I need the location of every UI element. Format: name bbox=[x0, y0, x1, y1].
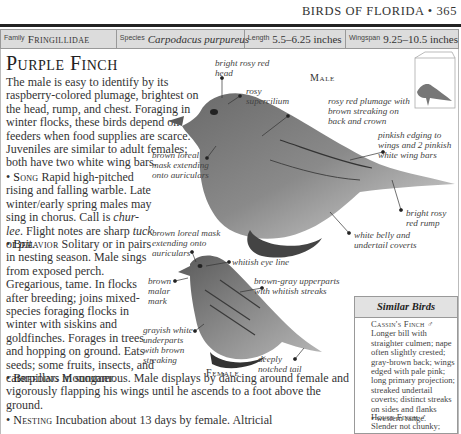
bullet: • bbox=[6, 237, 10, 251]
nesting-section: • Nesting Incubation about 13 days by fe… bbox=[6, 414, 351, 427]
male-symbol-icon: ♂ bbox=[427, 319, 433, 329]
family-value: Fringillidae bbox=[28, 33, 90, 45]
behavior-section: • Behavior Solitary or in pairs in nesti… bbox=[6, 238, 158, 385]
annotation-male-rump: bright rosy red rump bbox=[406, 208, 456, 228]
bullet: • bbox=[6, 371, 10, 385]
family-label: Family bbox=[4, 34, 25, 41]
annotation-female-tail: deeply notched tail bbox=[258, 354, 302, 374]
page-frame-left bbox=[0, 49, 1, 434]
length-cell: Length 5.5–6.25 inches bbox=[245, 30, 346, 48]
female-finch-illustration bbox=[178, 255, 322, 368]
range-map-card bbox=[415, 52, 455, 108]
female-label: Female bbox=[206, 367, 239, 378]
male-label: Male bbox=[310, 72, 335, 83]
header-rule bbox=[0, 24, 461, 27]
similar-birds-box: Similar Birds Cassin's Finch ♂ Longer bi… bbox=[354, 296, 458, 434]
annotation-male-belly: white belly and undertail coverts bbox=[354, 230, 434, 250]
species-label: Species bbox=[120, 34, 145, 41]
bullet: • bbox=[6, 170, 10, 184]
fact-bar: Family Fringillidae Species Carpodacus p… bbox=[0, 29, 459, 49]
similar-bird-entry: House Finch ♂ Slender not chunky; bbox=[371, 413, 457, 432]
similar-birds-heading: Similar Birds bbox=[355, 297, 457, 318]
breeding-label: Breeding bbox=[13, 371, 59, 385]
wingspan-value: 9.25–10.5 inches bbox=[383, 33, 458, 45]
page-frame-right bbox=[458, 49, 459, 434]
annotation-female-loreal: brown loreal mask extending onto auricul… bbox=[152, 228, 228, 258]
annotation-male-back: rosy red plumage with brown streaking on… bbox=[328, 96, 418, 126]
species-value: Carpodacus purpureus bbox=[148, 33, 249, 45]
length-label: Length bbox=[248, 34, 269, 41]
annotation-male-loreal: brown loreal mask extending onto auricul… bbox=[152, 150, 214, 180]
bullet: • bbox=[6, 413, 10, 427]
family-cell: Family Fringillidae bbox=[1, 30, 117, 48]
song-label: Song bbox=[13, 170, 38, 184]
species-title: Purple Finch bbox=[6, 52, 118, 75]
annotation-female-eye-line: whitish eye line bbox=[232, 257, 302, 267]
length-value: 5.5–6.25 inches bbox=[272, 33, 341, 45]
species-cell: Species Carpodacus purpureus bbox=[117, 30, 245, 48]
annotation-female-underparts: grayish white underparts with brown stre… bbox=[143, 325, 195, 365]
annotation-female-upperparts: brown-gray upperparts with whitish strea… bbox=[254, 276, 354, 296]
similar-bird-entry: Cassin's Finch ♂ Longer bill with straig… bbox=[371, 320, 457, 423]
breeding-section: • Breeding Monogamous. Male displays by … bbox=[6, 372, 351, 412]
running-head: BIRDS OF FLORIDA • 365 bbox=[302, 4, 457, 19]
annotation-male-wings: pinkish edging to wings and 2 pinkish wh… bbox=[378, 130, 458, 160]
wingspan-label: Wingspan bbox=[349, 34, 380, 41]
behavior-label: Behavior bbox=[13, 237, 58, 251]
annotation-male-head: bright rosy red head bbox=[215, 58, 275, 78]
annotation-female-malar: brown malar mark bbox=[148, 276, 176, 306]
wingspan-cell: Wingspan 9.25–10.5 inches bbox=[346, 30, 458, 48]
annotation-male-supercilium: rosy supercilium bbox=[246, 86, 302, 106]
nesting-label: Nesting bbox=[13, 413, 52, 427]
